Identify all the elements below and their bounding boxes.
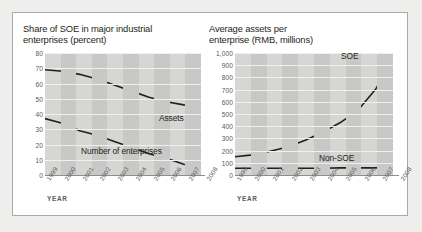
y-tick-label: 600	[222, 98, 233, 105]
y-tick-label: 1,000	[216, 50, 233, 57]
y-tick-label: 30	[35, 126, 43, 133]
figure-panel: Share of SOE in major industrial enterpr…	[12, 12, 408, 216]
y-tick-label: 40	[35, 111, 43, 118]
gridline	[235, 90, 393, 91]
y-tick-label: 300	[222, 135, 233, 142]
y-tick-label: 80	[35, 50, 43, 57]
chart-title-left: Share of SOE in major industrial enterpr…	[23, 23, 201, 46]
chart-title-right: Average assets per enterprise (RMB, mill…	[209, 23, 389, 46]
gridline	[45, 84, 201, 85]
gridline	[235, 126, 393, 127]
y-tick-label: 500	[222, 111, 233, 118]
y-tick-label: 0	[229, 172, 233, 179]
y-axis-labels-right: 01002003004005006007008009001,000	[209, 53, 235, 175]
x-tick-label: 2008	[399, 165, 413, 181]
chart-share-of-soe: Share of SOE in major industrial enterpr…	[23, 23, 205, 207]
x-axis-title-left: YEAR	[47, 195, 68, 202]
series-label-number-of-enterprises: Number of enterprises	[81, 146, 162, 156]
gridline	[235, 138, 393, 139]
gridline	[45, 99, 201, 100]
y-tick-label: 700	[222, 86, 233, 93]
gridline	[235, 114, 393, 115]
gridline	[235, 65, 393, 66]
series-label-soe: SOE	[341, 51, 358, 61]
gridline	[45, 53, 201, 54]
y-tick-label: 60	[35, 80, 43, 87]
y-tick-label: 900	[222, 62, 233, 69]
gridline	[235, 53, 393, 54]
y-tick-label: 0	[39, 172, 43, 179]
y-tick-label: 800	[222, 74, 233, 81]
x-axis-labels-right: 1999200020012002200320042005200620072008	[235, 176, 399, 206]
gridline	[235, 77, 393, 78]
y-tick-label: 200	[222, 147, 233, 154]
y-tick-label: 400	[222, 123, 233, 130]
x-axis-title-right: YEAR	[237, 195, 258, 202]
y-axis-labels-left: 01020304050607080	[23, 53, 45, 175]
y-tick-label: 100	[222, 159, 233, 166]
y-tick-label: 70	[35, 65, 43, 72]
series-label-assets: Assets	[159, 113, 184, 123]
gridline	[235, 102, 393, 103]
y-tick-label: 50	[35, 95, 43, 102]
gridline	[45, 129, 201, 130]
figure-page: Share of SOE in major industrial enterpr…	[0, 0, 422, 232]
y-tick-label: 10	[35, 156, 43, 163]
x-axis-labels-left: 1999200020012002200320042005200620072008	[45, 176, 205, 206]
y-tick-label: 20	[35, 141, 43, 148]
gridline	[45, 68, 201, 69]
gridline	[235, 163, 393, 164]
plot-canvas-right	[235, 53, 393, 175]
gridline	[235, 151, 393, 152]
series-label-non-soe: Non-SOE	[319, 153, 354, 163]
plot-area-right: 01002003004005006007008009001,000	[209, 53, 393, 175]
chart-average-assets: Average assets per enterprise (RMB, mill…	[209, 23, 399, 207]
gridline	[45, 160, 201, 161]
